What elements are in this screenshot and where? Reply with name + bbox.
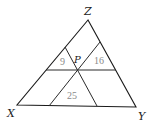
- vertex-label-x: X: [6, 107, 16, 120]
- vertex-label-z: Z: [83, 5, 92, 18]
- point-label-p: P: [73, 54, 81, 65]
- triangle-diagram: Z X Y P 9 16 25: [0, 0, 153, 126]
- area-label-top-right: 16: [94, 55, 104, 66]
- diagram-svg: Z X Y P 9 16 25: [0, 0, 153, 126]
- vertex-label-y: Y: [138, 110, 147, 123]
- area-label-top-left: 9: [60, 56, 65, 67]
- area-label-bottom: 25: [67, 90, 77, 101]
